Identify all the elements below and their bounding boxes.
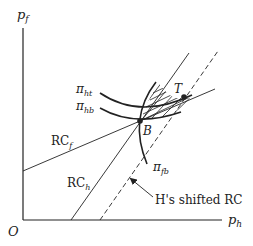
pi-hb-label: πhb (75, 99, 94, 115)
point-t-label: T (174, 82, 183, 96)
pi-fb-label: πfb (152, 160, 169, 176)
point-b (137, 118, 143, 124)
shifted-rc-arrow (131, 179, 153, 197)
pi-ht-label: πht (75, 82, 93, 98)
point-t (181, 94, 187, 100)
y-axis-label: pf (17, 7, 30, 24)
origin-label: O (8, 224, 19, 239)
shifted-rc-label: H's shifted RC (155, 193, 243, 207)
point-b-label: B (142, 124, 152, 138)
reaction-curve-diagram: pf O ph πht πhb πfb RCf RCh H's shifted … (0, 0, 253, 246)
rc-h-label: RCh (67, 176, 90, 192)
rc-f-label: RCf (51, 134, 74, 150)
x-axis-label: ph (228, 212, 242, 229)
